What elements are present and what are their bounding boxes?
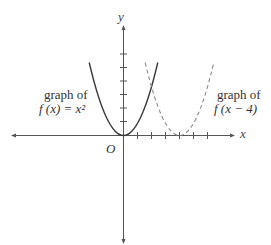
left-annotation-line1: graph of: [44, 88, 88, 102]
coordinate-plane: [0, 0, 271, 245]
origin-label: O: [106, 142, 115, 156]
x-axis-label: x: [240, 127, 246, 141]
right-annotation-line2: f (x − 4): [214, 102, 257, 116]
right-annotation-line1: graph of: [217, 88, 261, 102]
y-axis-label: y: [118, 10, 124, 24]
left-annotation-line2: f (x) = x²: [39, 102, 85, 116]
function-translation-figure: y x O graph of f (x) = x² graph of f (x …: [0, 0, 271, 245]
